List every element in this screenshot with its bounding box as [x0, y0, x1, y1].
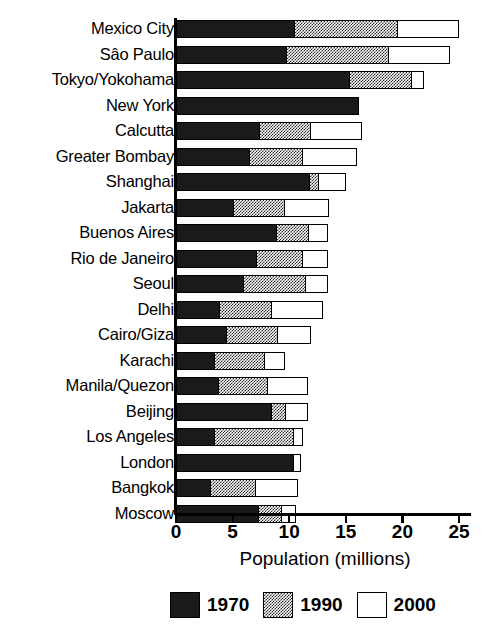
bar-segment-1970 [177, 149, 249, 165]
bar-segment-1990 [219, 302, 270, 318]
x-tick-label: 15 [326, 521, 366, 543]
stacked-bar[interactable] [176, 173, 346, 191]
category-label: Beijing [4, 402, 174, 421]
bar-segment-2000 [388, 47, 449, 63]
bar-segment-1970 [177, 225, 276, 241]
chart-legend: 1970 1990 2000 [170, 588, 470, 622]
bar-segment-1970 [177, 21, 294, 37]
stacked-bar[interactable] [176, 46, 450, 64]
bar-segment-1970 [177, 251, 256, 267]
stacked-bar[interactable] [176, 454, 301, 472]
plot-area: Mexico CitySâo PauloTokyo/YokohamaNew Yo… [0, 18, 500, 508]
stacked-bar[interactable] [176, 71, 424, 89]
bar-segment-1990 [256, 251, 302, 267]
bar-segment-1990 [226, 327, 277, 343]
stacked-bar[interactable] [176, 352, 285, 370]
stacked-bar[interactable] [176, 275, 328, 293]
bar-segment-1970 [177, 353, 214, 369]
bar-segment-2000 [271, 302, 322, 318]
bar-segment-1970 [177, 72, 349, 88]
category-label: Mexico City [4, 19, 174, 38]
x-axis-line [175, 513, 471, 516]
category-label: Delhi [4, 300, 174, 319]
category-label: Rio de Janeiro [4, 249, 174, 268]
category-label: Tokyo/Yokohama [4, 70, 174, 89]
x-tick-label: 0 [156, 521, 196, 543]
chart-row: Delhi [0, 299, 500, 325]
x-tick-label: 20 [382, 521, 422, 543]
category-label: Moscow [4, 504, 174, 523]
category-label: Manila/Quezon [4, 376, 174, 395]
stacked-bar[interactable] [176, 148, 357, 166]
category-label: Calcutta [4, 121, 174, 140]
bar-segment-2000 [310, 123, 360, 139]
stacked-bar[interactable] [176, 97, 359, 115]
legend-swatch-1990-icon [263, 592, 293, 618]
x-tick-label: 10 [269, 521, 309, 543]
bar-segment-2000 [411, 72, 423, 88]
bar-segment-1970 [177, 174, 309, 190]
bar-segment-2000 [305, 276, 326, 292]
bar-segment-1990 [243, 276, 306, 292]
bar-segment-1970 [177, 327, 226, 343]
bar-segment-1970 [177, 123, 259, 139]
chart-row: Rio de Janeiro [0, 248, 500, 274]
legend-swatch-2000-icon [357, 592, 387, 618]
bar-segment-2000 [267, 378, 307, 394]
chart-row: Bangkok [0, 477, 500, 503]
bar-segment-1990 [210, 480, 255, 496]
population-bar-chart: Mexico CitySâo PauloTokyo/YokohamaNew Yo… [0, 0, 500, 644]
category-label: Shanghai [4, 172, 174, 191]
legend-item-1990[interactable]: 1990 [263, 592, 342, 618]
legend-label-2000: 2000 [394, 594, 436, 616]
stacked-bar[interactable] [176, 479, 298, 497]
category-label: New York [4, 96, 174, 115]
category-label: Jakarta [4, 198, 174, 217]
bar-segment-1990 [276, 225, 307, 241]
bar-segment-1990 [214, 429, 293, 445]
category-label: London [4, 453, 174, 472]
legend-item-1970[interactable]: 1970 [170, 592, 249, 618]
bar-segment-1990 [309, 174, 318, 190]
bar-segment-2000 [285, 404, 307, 420]
chart-row: Karachi [0, 350, 500, 376]
y-axis-spine [174, 18, 177, 515]
category-label: Karachi [4, 351, 174, 370]
legend-label-1970: 1970 [207, 594, 249, 616]
stacked-bar[interactable] [176, 122, 362, 140]
x-tick-label: 25 [439, 521, 479, 543]
bar-segment-1970 [177, 378, 218, 394]
chart-row: New York [0, 95, 500, 121]
bar-segment-2000 [277, 327, 309, 343]
stacked-bar[interactable] [176, 301, 323, 319]
chart-row: Seoul [0, 273, 500, 299]
chart-row: Manila/Quezon [0, 375, 500, 401]
bar-segment-1970 [177, 455, 293, 471]
stacked-bar[interactable] [176, 224, 328, 242]
stacked-bar[interactable] [176, 199, 329, 217]
chart-row: Shanghai [0, 171, 500, 197]
chart-row: Tokyo/Yokohama [0, 69, 500, 95]
bar-segment-1990 [249, 149, 303, 165]
legend-label-1990: 1990 [300, 594, 342, 616]
x-axis-label: Population (millions) [175, 548, 475, 570]
stacked-bar[interactable] [176, 403, 308, 421]
bar-segment-1990 [349, 72, 411, 88]
stacked-bar[interactable] [176, 326, 311, 344]
stacked-bar[interactable] [176, 250, 328, 268]
bar-segment-1970 [177, 98, 358, 114]
legend-item-2000[interactable]: 2000 [357, 592, 436, 618]
stacked-bar[interactable] [176, 377, 308, 395]
bar-segment-2000 [302, 149, 356, 165]
stacked-bar[interactable] [176, 20, 459, 38]
chart-row: Jakarta [0, 197, 500, 223]
legend-swatch-1970-icon [170, 592, 200, 618]
bar-segment-1970 [177, 47, 286, 63]
bar-segment-2000 [302, 251, 327, 267]
bar-segment-1970 [177, 302, 219, 318]
stacked-bar[interactable] [176, 428, 303, 446]
bar-segment-2000 [318, 174, 345, 190]
bar-segment-1990 [233, 200, 284, 216]
bar-segment-1990 [286, 47, 388, 63]
bar-segment-1970 [177, 429, 214, 445]
